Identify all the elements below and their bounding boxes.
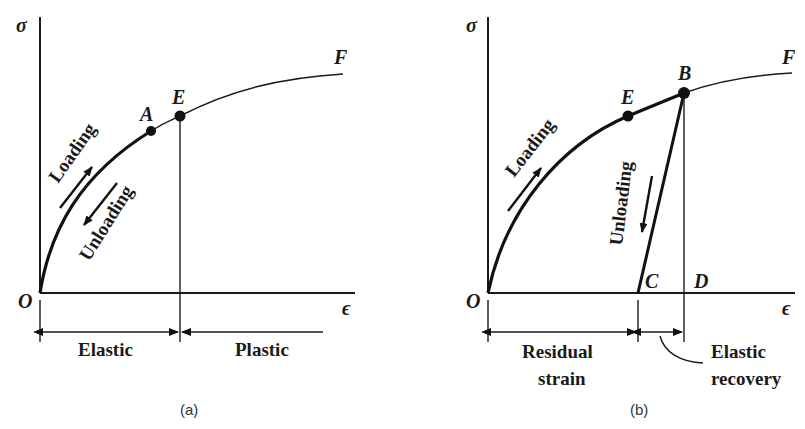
elastic-recovery-leader-line xyxy=(660,336,703,363)
panel-a: σ ϵ O A E F Loading Unloading Elastic Pl… xyxy=(16,14,355,418)
point-e-label: E xyxy=(171,86,185,108)
sigma-axis-label: σ xyxy=(16,14,28,36)
point-f-label: F xyxy=(781,46,796,68)
elastic-region-label: Elastic xyxy=(78,339,133,360)
point-b-label: B xyxy=(677,62,691,84)
stress-strain-diagrams: σ ϵ O A E F Loading Unloading Elastic Pl… xyxy=(0,0,805,429)
residual-label-line2: strain xyxy=(538,368,586,389)
origin-label: O xyxy=(466,290,480,312)
point-a-label: A xyxy=(138,103,153,125)
recovery-label-line1: Elastic xyxy=(711,341,766,362)
caption-b: (b) xyxy=(630,401,648,418)
point-b-dot xyxy=(678,87,690,99)
panel-b: σ ϵ O E B F C D Loading Unloading Residu… xyxy=(466,14,796,418)
point-e-label: E xyxy=(620,86,634,108)
loading-curve xyxy=(488,93,684,293)
point-d-label: D xyxy=(693,270,708,292)
caption-a: (a) xyxy=(180,401,198,418)
point-f-label: F xyxy=(333,46,348,68)
continuation-curve xyxy=(684,73,792,93)
origin-label: O xyxy=(18,290,32,312)
unloading-label: Unloading xyxy=(75,181,138,264)
point-c-label: C xyxy=(645,270,659,292)
plastic-region-label: Plastic xyxy=(235,339,289,360)
unloading-line xyxy=(638,93,684,293)
loading-label: Loading xyxy=(44,118,100,186)
sigma-axis-label: σ xyxy=(466,14,478,36)
unloading-arrow-icon xyxy=(642,176,652,232)
point-e-dot xyxy=(623,111,634,122)
point-a-dot xyxy=(146,126,156,136)
epsilon-axis-label: ϵ xyxy=(782,297,791,319)
epsilon-axis-label: ϵ xyxy=(342,297,351,319)
unloading-label: Unloading xyxy=(605,160,636,247)
residual-label-line1: Residual xyxy=(522,341,593,362)
recovery-label-line2: recovery xyxy=(711,368,782,389)
